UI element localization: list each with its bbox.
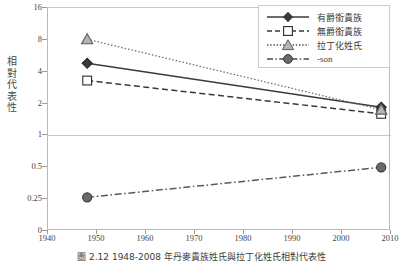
x-tick-label: 1980 (235, 233, 252, 243)
x-tick-label: 2000 (333, 233, 350, 243)
y-tick-label: 2 (0, 98, 42, 108)
legend-item-son-suffix[interactable]: -son (259, 52, 389, 66)
y-tick-label: 1 (0, 129, 42, 139)
triangle-dotted-key (265, 38, 311, 52)
y-tick-label: 0.5 (0, 161, 42, 171)
data-point-marker (82, 58, 92, 68)
chart-figure: 相 對 代 表 性 16 8 4 2 1 0.5 0.25 0 1940 195… (0, 0, 403, 262)
square-dashed-key (265, 24, 311, 38)
data-point-marker (377, 163, 386, 172)
data-point-marker (83, 193, 92, 202)
data-point-marker (82, 34, 93, 44)
y-tick-label: 0 (0, 225, 42, 235)
diamond-solid-key (265, 10, 311, 24)
data-point-marker (83, 76, 92, 85)
circle-dashdot-key (265, 52, 311, 66)
legend-item-label: 拉丁化姓氏 (317, 39, 362, 52)
series-line-0 (87, 63, 381, 107)
y-tick-label: 16 (0, 2, 42, 12)
y-tick-label: 8 (0, 34, 42, 44)
series-line-3 (87, 167, 381, 197)
legend-item-label: 無爵銜貴族 (317, 25, 362, 38)
x-tick-label: 1960 (137, 233, 154, 243)
figure-caption: 圖 2.12 1948-2008 年丹麥貴族姓氏與拉丁化姓氏相對代表性 (0, 250, 403, 262)
legend-item-titled-nobility[interactable]: 有爵銜貴族 (259, 10, 389, 24)
legend-item-label: 有爵銜貴族 (317, 11, 362, 24)
legend-item-label: -son (317, 54, 333, 64)
x-tick-label: 1990 (284, 233, 301, 243)
legend-item-untitled-nobility[interactable]: 無爵銜貴族 (259, 24, 389, 38)
x-tick-label: 1950 (88, 233, 105, 243)
y-tick-label: 0.25 (0, 193, 42, 203)
y-axis-tick-labels: 16 8 4 2 1 0.5 0.25 0 (0, 0, 42, 262)
x-tick-label: 2010 (382, 233, 399, 243)
legend-item-latinized-surnames[interactable]: 拉丁化姓氏 (259, 38, 389, 52)
x-tick-label: 1940 (39, 233, 56, 243)
x-tick-label: 1970 (186, 233, 203, 243)
y-tick-label: 4 (0, 66, 42, 76)
legend: 有爵銜貴族 無爵銜貴族 拉丁化姓氏 (258, 5, 390, 68)
